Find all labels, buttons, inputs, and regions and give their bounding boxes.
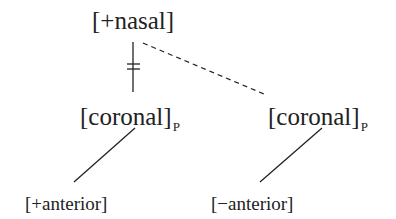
edge-coronal-right-anterior [260,128,322,182]
edge-coronal-left-anterior [74,128,135,182]
node-nasal: [+nasal] [92,8,174,33]
node-coronal-left: [coronal]P [80,104,180,133]
node-coronal-right: [coronal]P [268,104,368,133]
node-anterior-minus: [−anterior] [211,194,293,213]
node-coronal-right-label: [coronal] [268,103,360,130]
node-coronal-left-subscript: P [173,119,180,134]
node-coronal-left-label: [coronal] [80,103,172,130]
node-coronal-right-subscript: P [361,119,368,134]
edge-nasal-coronal-right [143,43,264,94]
node-anterior-plus: [+anterior] [25,194,107,213]
